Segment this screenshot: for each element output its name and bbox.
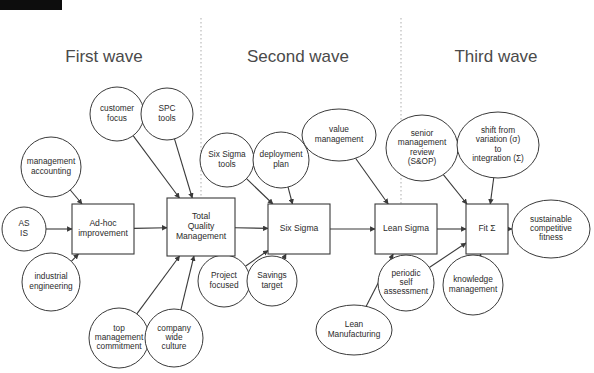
process-boxes: Ad-hocimprovementTotalQualityManagementS… [72,198,508,256]
wave-title-third: Third wave [454,47,537,66]
node-label-savings-target: Savingstarget [257,270,287,289]
box-label-lean-sigma: Lean Sigma [383,223,429,233]
node-knowledge-management[interactable]: knowledgemanagement [443,255,503,315]
box-fit-sigma[interactable]: Fit Σ [466,204,508,254]
node-as-is[interactable]: ASIS [2,207,46,251]
node-label-industrial-engineering: industrialengineering [29,271,73,290]
node-deployment-plan[interactable]: deploymentplan [253,132,309,188]
node-label-knowledge-management: knowledgemanagement [449,274,498,293]
node-lean-manufacturing[interactable]: LeanManufacturing [316,305,392,355]
wave-titles: First waveSecond waveThird wave [65,47,537,66]
connector-management-accounting-to-ad-hoc-improvement [70,190,82,204]
diagram-canvas: ASISmanagementaccountingindustrialengine… [0,0,594,373]
node-savings-target[interactable]: Savingstarget [247,256,297,306]
connector-top-management-commitment-to-total-quality-management [137,256,180,314]
connector-industrial-engineering-to-ad-hoc-improvement [71,254,78,261]
wave-title-second: Second wave [247,47,349,66]
node-industrial-engineering[interactable]: industrialengineering [22,253,80,311]
connector-savings-target-to-six-sigma [284,254,286,259]
node-management-accounting[interactable]: managementaccounting [21,137,81,197]
node-customer-focus[interactable]: customerfocus [90,87,144,141]
node-senior-management-review[interactable]: seniormanagementreview(S&OP) [386,115,458,181]
node-spc-tools[interactable]: SPCtools [141,88,193,140]
box-six-sigma[interactable]: Six Sigma [268,204,330,254]
box-label-fit-sigma: Fit Σ [478,223,495,233]
node-company-wide-culture[interactable]: companywideculture [145,309,203,367]
connector-deployment-plan-to-six-sigma [288,187,292,204]
node-sustainable-competitive-fitness[interactable]: sustainablecompetitivefitness [512,200,590,258]
box-ad-hoc-improvement[interactable]: Ad-hocimprovement [72,204,134,254]
box-total-quality-management[interactable]: TotalQualityManagement [167,198,235,256]
node-label-management-accounting: managementaccounting [27,156,76,175]
box-label-six-sigma: Six Sigma [280,223,319,233]
node-six-sigma-tools[interactable]: Six Sigmatools [200,133,254,187]
connector-total-quality-management-to-six-sigma [235,228,268,229]
node-value-management[interactable]: valuemanagement [302,109,376,161]
node-shift-from-variation[interactable]: shift fromvariation (σ)tointegration (Σ) [457,112,539,178]
connector-spc-tools-to-total-quality-management [174,139,192,198]
connector-value-management-to-lean-sigma [356,158,389,204]
node-project-focused[interactable]: Projectfocused [198,255,250,307]
node-label-project-focused: Projectfocused [209,270,238,289]
node-label-spc-tools: SPCtools [158,103,176,122]
node-periodic-self-assessment[interactable]: periodicselfassessment [378,255,434,311]
wave-title-first: First wave [65,47,142,66]
box-lean-sigma[interactable]: Lean Sigma [375,204,437,254]
three-waves-diagram: ASISmanagementaccountingindustrialengine… [0,0,594,373]
connector-shift-from-variation-to-fit-sigma [490,178,493,204]
connector-customer-focus-to-total-quality-management [133,136,179,198]
connector-company-wide-culture-to-total-quality-management [181,256,194,310]
connector-senior-management-review-to-fit-sigma [443,175,467,204]
node-top-management-commitment[interactable]: topmanagementcommitment [89,308,149,368]
connector-ad-hoc-improvement-to-total-quality-management [134,228,167,229]
